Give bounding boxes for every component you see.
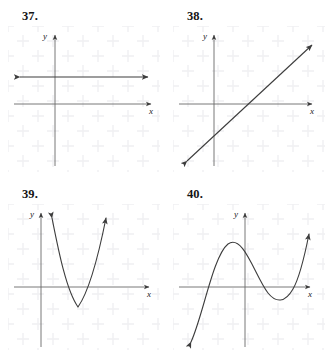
graph-37: y x (8, 26, 160, 172)
problem-number-39: 39. (22, 187, 38, 201)
x-axis-label-40: x (307, 289, 312, 299)
problem-number-38: 38. (187, 9, 203, 23)
x-axis-label-39: x (146, 289, 151, 299)
problem-40: 40. y x (165, 178, 330, 356)
graph-grid-37 (8, 26, 160, 172)
problem-37: 37. y x (0, 0, 165, 178)
x-axis-label-37: x (148, 106, 153, 116)
graph-grid-39 (8, 204, 160, 350)
graph-38: y x (173, 26, 325, 172)
problem-39: 39. y x (0, 178, 165, 356)
problem-number-37: 37. (22, 9, 38, 23)
y-axis-label-38: y (202, 31, 207, 41)
worksheet-page: 37. y x (0, 0, 330, 356)
y-axis-label-39: y (29, 209, 34, 219)
y-axis-label-40: y (233, 209, 238, 219)
problem-number-40: 40. (187, 187, 203, 201)
graph-39: y x (8, 204, 160, 350)
x-axis-label-38: x (309, 106, 314, 116)
graph-40: y x (173, 204, 325, 350)
y-axis-label-37: y (42, 31, 47, 41)
problem-38: 38. y x (165, 0, 330, 178)
graph-grid-38 (173, 26, 325, 172)
